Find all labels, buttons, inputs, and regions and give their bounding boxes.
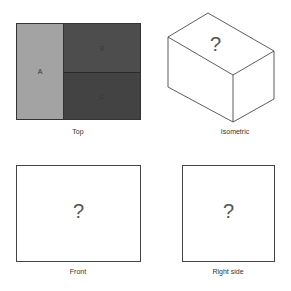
front-view: ?	[16, 165, 141, 262]
isometric-caption: Isometric	[175, 128, 291, 135]
region-b-label: B	[100, 45, 105, 52]
region-a: A	[17, 24, 64, 119]
region-b: B	[64, 24, 140, 73]
isometric-view	[145, 0, 291, 145]
right-side-caption: Right side	[168, 268, 288, 275]
front-question-mark: ?	[17, 200, 140, 223]
isometric-question-mark: ?	[210, 33, 221, 56]
right-question-mark: ?	[183, 200, 274, 223]
top-view: A B C	[16, 23, 141, 120]
region-a-label: A	[38, 68, 43, 75]
region-c: C	[64, 73, 140, 119]
front-caption: Front	[18, 268, 138, 275]
right-side-view: ?	[182, 165, 275, 262]
region-c-label: C	[99, 93, 104, 100]
top-caption: Top	[18, 128, 138, 135]
